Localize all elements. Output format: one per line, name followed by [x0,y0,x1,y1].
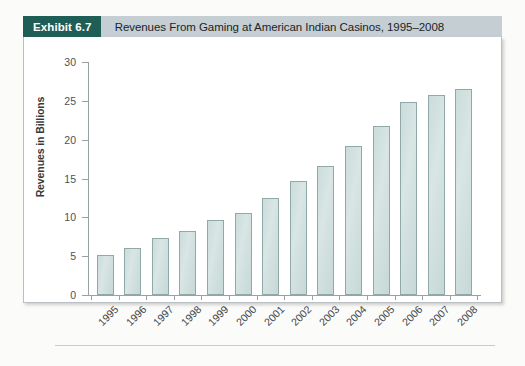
chart-card: Revenues in Billions 051015202530 [23,37,502,303]
exhibit-number-badge: Exhibit 6.7 [23,16,101,37]
bar [428,95,445,295]
scanned-page: Exhibit 6.7 Revenues From Gaming at Amer… [0,0,525,366]
y-axis-tick [82,256,88,257]
x-axis-tick [367,295,368,300]
exhibit-header: Exhibit 6.7 Revenues From Gaming at Amer… [23,16,502,37]
x-axis-tick [339,295,340,300]
x-axis-tick-label: 2004 [338,303,369,334]
bar [97,255,114,295]
x-axis-tick-label: 2007 [421,303,452,334]
x-axis-tick [229,295,230,300]
x-axis-tick [284,295,285,300]
x-axis-tick [450,295,451,300]
footer-divider [55,345,495,346]
bar [455,89,472,295]
x-axis-tick-label: 2002 [283,303,314,334]
x-axis-tick [477,295,478,300]
x-axis-tick-label: 2005 [365,303,396,334]
y-axis-tick [82,217,88,218]
bar [262,198,279,295]
x-axis-tick-label: 2000 [227,303,258,334]
bar [400,102,417,295]
x-axis-tick-label: 1998 [172,303,203,334]
x-axis-tick-label: 1996 [117,303,148,334]
x-axis-tick [422,295,423,300]
x-axis-tick [312,295,313,300]
y-axis-tick [82,101,88,102]
x-axis-tick-label: 2001 [255,303,286,334]
x-axis-tick [91,295,92,300]
y-axis-tick [82,140,88,141]
y-axis-tick-label: 30 [32,56,76,68]
bar [124,248,141,295]
x-axis-tick-label: 2003 [310,303,341,334]
y-axis-tick-label: 15 [32,173,76,185]
bar [207,220,224,295]
bar [152,238,169,295]
x-axis-tick [146,295,147,300]
bar [235,213,252,295]
x-axis-tick-label: 1995 [89,303,120,334]
y-axis-tick [82,179,88,180]
x-axis-tick [257,295,258,300]
y-axis-tick [82,62,88,63]
exhibit-title: Revenues From Gaming at American Indian … [101,16,445,37]
x-axis-tick-label: 2008 [448,303,479,334]
x-axis-tick [395,295,396,300]
x-axis-tick-label: 1997 [145,303,176,334]
x-axis-tick-label: 1999 [200,303,231,334]
bar [317,166,334,295]
bar [290,181,307,295]
x-axis-tick [119,295,120,300]
y-axis-tick-label: 20 [32,134,76,146]
bar [345,146,362,295]
x-axis-tick [201,295,202,300]
y-axis-tick-label: 25 [32,95,76,107]
y-axis-line [88,62,89,296]
bar-chart-plot-area: Revenues in Billions 051015202530 [24,37,503,303]
bar [179,231,196,295]
y-axis-tick-label: 0 [32,289,76,301]
x-axis-tick [174,295,175,300]
bar [373,126,390,295]
y-axis-tick [82,295,88,296]
y-axis-tick-label: 5 [32,250,76,262]
x-axis-tick-label: 2006 [393,303,424,334]
y-axis-tick-label: 10 [32,211,76,223]
